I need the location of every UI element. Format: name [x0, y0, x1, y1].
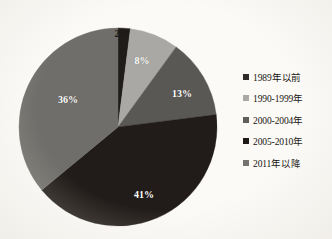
pie-slice-group	[19, 28, 217, 226]
pie-slice-label: 36%	[58, 94, 78, 105]
legend-swatch-icon	[243, 160, 249, 166]
legend-item[interactable]: 2011年以降	[243, 155, 331, 170]
legend-item[interactable]: 2000-2004年	[243, 112, 331, 127]
legend-item[interactable]: 1990-1999年	[243, 91, 331, 106]
pie-svg	[18, 27, 218, 227]
pie-chart-figure: 2%8%13%41%36% 1989年以前1990-1999年2000-2004…	[0, 0, 332, 239]
pie-chart-plot-area: 2%8%13%41%36%	[18, 27, 218, 227]
legend-item-label: 2005-2010年	[253, 134, 303, 148]
legend-item[interactable]: 1989年以前	[243, 69, 331, 84]
legend-swatch-icon	[243, 117, 249, 123]
legend-swatch-icon	[243, 138, 249, 144]
legend-item[interactable]: 2005-2010年	[243, 134, 331, 149]
legend-item-label: 2011年以降	[253, 156, 301, 170]
legend-item-label: 2000-2004年	[253, 113, 303, 127]
pie-slice-label: 8%	[135, 55, 150, 66]
chart-legend: 1989年以前1990-1999年2000-2004年2005-2010年201…	[243, 69, 331, 177]
pie-slice-label: 2%	[115, 28, 130, 39]
pie-slice-label: 13%	[172, 88, 192, 99]
legend-item-label: 1989年以前	[253, 70, 301, 84]
legend-item-label: 1990-1999年	[253, 91, 303, 105]
legend-swatch-icon	[243, 95, 249, 101]
legend-swatch-icon	[243, 74, 249, 80]
pie-slice-label: 41%	[134, 189, 154, 200]
